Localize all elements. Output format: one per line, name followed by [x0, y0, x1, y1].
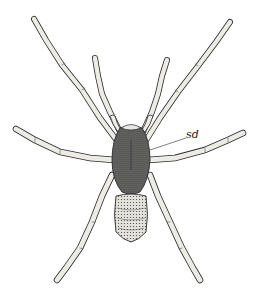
abdomen — [115, 194, 148, 242]
spider-illustration: sd — [0, 0, 256, 294]
spider-drawing — [0, 0, 256, 294]
label-sd: sd — [186, 128, 199, 141]
label-leader-line — [150, 138, 186, 150]
